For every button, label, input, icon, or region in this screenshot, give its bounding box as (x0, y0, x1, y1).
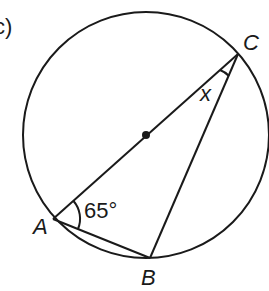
angle-arc-A (74, 201, 81, 229)
angle-A-label: 65° (84, 198, 117, 223)
center-dot (142, 131, 150, 139)
part-label: c) (0, 14, 12, 39)
point-B-label: B (141, 265, 156, 290)
point-C-label: C (243, 30, 259, 55)
angle-arc-C (220, 70, 229, 76)
point-A-label: A (31, 214, 48, 239)
chord-CB (150, 54, 238, 258)
chord-AB (53, 219, 150, 258)
circle-theorem-diagram: c) 65° x A B C (0, 0, 269, 291)
angle-C-label: x (199, 81, 212, 106)
